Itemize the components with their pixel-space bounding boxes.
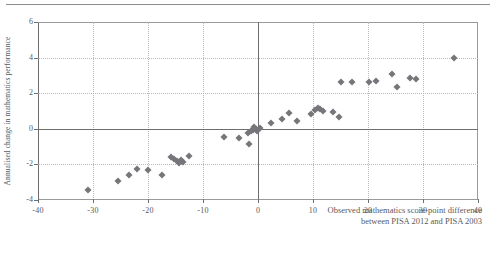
top-divider-rule — [6, 4, 490, 5]
x-axis-title-line2: between PISA 2012 and PISA 2003 — [244, 216, 482, 227]
scatter-point — [220, 133, 227, 140]
x-axis-tick — [203, 199, 204, 203]
y-axis-tick — [34, 58, 38, 59]
y-axis-tick-label: 2 — [13, 89, 33, 97]
scatter-point — [389, 70, 396, 77]
y-axis-tick — [34, 129, 38, 130]
y-axis-tick — [34, 93, 38, 94]
plot-frame-right — [477, 22, 478, 200]
scatter-point — [348, 78, 355, 85]
y-axis-title: Annualised change in mathematics perform… — [2, 22, 14, 200]
scatter-point — [319, 107, 326, 114]
y-axis-tick-label: -4 — [13, 196, 33, 204]
y-axis-tick-label: 6 — [13, 18, 33, 26]
y-axis-tick — [34, 164, 38, 165]
x-axis-tick — [313, 199, 314, 203]
scatter-point — [366, 79, 373, 86]
y-axis-tick-label: 0 — [13, 125, 33, 133]
gridline-vertical — [368, 22, 370, 200]
scatter-point — [450, 55, 457, 62]
scatter-point — [85, 187, 92, 194]
x-axis-tick — [368, 199, 369, 203]
x-axis-tick-label: -40 — [23, 206, 53, 215]
x-axis-tick-label: -30 — [78, 206, 108, 215]
x-axis-tick — [258, 199, 259, 203]
scatter-point — [336, 114, 343, 121]
x-axis-tick — [423, 199, 424, 203]
scatter-point — [144, 166, 151, 173]
y-axis-tick-label: -2 — [13, 160, 33, 168]
y-axis-tick-label: 4 — [13, 54, 33, 62]
scatter-point — [235, 134, 242, 141]
gridline-vertical — [148, 22, 150, 200]
scatter-point — [246, 140, 253, 147]
x-axis-tick — [148, 199, 149, 203]
scatter-point — [413, 75, 420, 82]
scatter-point — [125, 172, 132, 179]
gridline-vertical — [203, 22, 205, 200]
scatter-point — [329, 108, 336, 115]
scatter-point — [268, 120, 275, 127]
y-axis-tick — [34, 22, 38, 23]
scatter-point — [115, 178, 122, 185]
x-axis-tick-label: -10 — [188, 206, 218, 215]
plot-area: -40-30-20-10010203040-4-20246 — [38, 22, 478, 200]
scatter-point — [279, 115, 286, 122]
scatter-point — [372, 77, 379, 84]
gridline-vertical — [423, 22, 425, 200]
axis-line-x-zero — [258, 22, 259, 200]
scatter-point — [393, 83, 400, 90]
scatter-point — [159, 172, 166, 179]
x-axis-tick — [478, 199, 479, 203]
scatter-point — [285, 109, 292, 116]
x-axis-tick-label: -20 — [133, 206, 163, 215]
x-axis-tick — [93, 199, 94, 203]
x-axis-title: Observed mathematics score-point differe… — [244, 205, 488, 227]
x-axis-tick — [38, 199, 39, 203]
scatter-point — [294, 118, 301, 125]
scatter-chart-figure: -40-30-20-10010203040-4-20246 Annualised… — [0, 0, 496, 255]
scatter-point — [337, 79, 344, 86]
x-axis-title-line1: Observed mathematics score-point differe… — [244, 205, 482, 216]
y-axis-tick — [34, 200, 38, 201]
scatter-point — [133, 166, 140, 173]
gridline-vertical — [93, 22, 95, 200]
scatter-point — [185, 152, 192, 159]
